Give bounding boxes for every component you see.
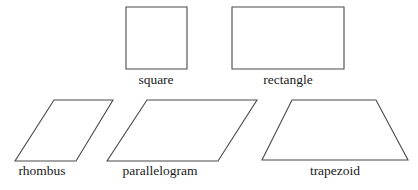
rectangle-figure: rectangle <box>232 7 344 87</box>
parallelogram-figure: parallelogram <box>107 100 257 178</box>
square-shape <box>126 7 187 69</box>
square-label: square <box>138 72 173 87</box>
trapezoid-label: trapezoid <box>310 163 360 178</box>
trapezoid-figure: trapezoid <box>262 100 408 178</box>
rectangle-shape <box>232 7 344 69</box>
quadrilaterals-diagram: square rectangle rhombus parallelogram t… <box>0 0 418 190</box>
parallelogram-label: parallelogram <box>123 163 198 178</box>
rhombus-label: rhombus <box>18 163 65 178</box>
rhombus-shape <box>15 100 113 161</box>
square-figure: square <box>126 7 187 87</box>
rectangle-label: rectangle <box>263 72 312 87</box>
parallelogram-shape <box>107 100 257 161</box>
rhombus-figure: rhombus <box>15 100 113 178</box>
trapezoid-shape <box>262 100 408 160</box>
